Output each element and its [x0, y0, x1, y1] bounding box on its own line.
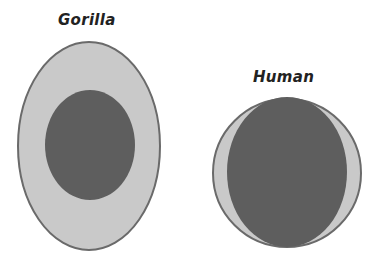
diagram-canvas: Gorilla Human: [0, 0, 374, 262]
human-figure: [213, 97, 361, 247]
gorilla-label: Gorilla: [58, 11, 116, 29]
human-label: Human: [253, 68, 314, 86]
gorilla-inner-ellipse: [45, 90, 135, 200]
human-inner-ellipse: [227, 97, 347, 247]
diagram-svg: [0, 0, 374, 262]
gorilla-figure: [18, 42, 160, 250]
